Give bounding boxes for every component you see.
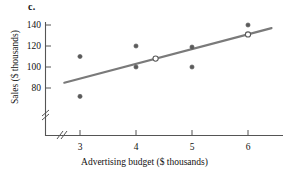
y-tick-label-140: 140 bbox=[17, 20, 41, 30]
part-label: c. bbox=[28, 1, 35, 12]
y-tick-label-120: 120 bbox=[17, 41, 41, 51]
x-tick-label-3: 3 bbox=[70, 142, 90, 152]
y-tick-label-100: 100 bbox=[17, 62, 41, 72]
data-points-group bbox=[78, 23, 250, 99]
data-point bbox=[246, 23, 250, 27]
y-tick-marks bbox=[46, 25, 52, 88]
data-point bbox=[78, 94, 82, 98]
data-point bbox=[134, 44, 138, 48]
data-point bbox=[78, 54, 82, 58]
data-point bbox=[134, 65, 138, 69]
y-tick-label-80: 80 bbox=[17, 83, 41, 93]
x-tick-label-6: 6 bbox=[238, 142, 258, 152]
regression-line bbox=[64, 28, 271, 83]
data-point bbox=[190, 65, 194, 69]
x-tick-label-5: 5 bbox=[182, 142, 202, 152]
trend-line bbox=[64, 28, 271, 83]
highlight-point bbox=[245, 32, 250, 37]
x-tick-label-4: 4 bbox=[126, 142, 146, 152]
data-point bbox=[190, 45, 194, 49]
scatter-plot-figure: c. Sales ($ thousands) Advertising budge… bbox=[0, 0, 289, 178]
x-axis-label: Advertising budget ($ thousands) bbox=[0, 157, 289, 167]
highlight-point bbox=[153, 56, 158, 61]
x-tick-marks bbox=[80, 130, 248, 136]
